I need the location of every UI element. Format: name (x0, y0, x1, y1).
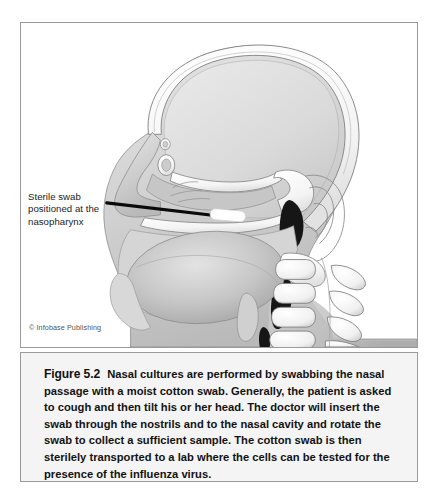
figure-caption-body: Nasal cultures are performed by swabbing… (44, 368, 391, 480)
head-anatomy-illustration (21, 23, 417, 347)
figure-caption-box: Figure 5.2Nasal cultures are performed b… (20, 352, 418, 482)
callout-line-3: nasopharynx (28, 216, 160, 228)
callout-line-2: positioned at the (28, 203, 160, 215)
illustration-panel: Sterile swab positioned at the nasophary… (20, 22, 418, 348)
figure-caption-text: Figure 5.2Nasal cultures are performed b… (21, 353, 417, 482)
figure-number-label: Figure 5.2 (44, 367, 100, 381)
publisher-credit: © Infobase Publishing (29, 323, 101, 332)
swab-callout-label: Sterile swab positioned at the nasophary… (28, 191, 160, 228)
callout-line-1: Sterile swab (28, 191, 160, 203)
figure-page: Sterile swab positioned at the nasophary… (0, 0, 439, 489)
